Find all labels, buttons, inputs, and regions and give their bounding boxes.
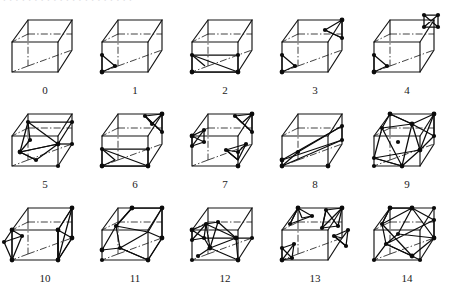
- cube-diagram-14: [362, 196, 452, 270]
- case-label-7: 7: [180, 177, 270, 191]
- cube-case-grid: 0: [0, 8, 461, 289]
- isosurface-5: [100, 112, 165, 169]
- case-cell-0: 0: [0, 8, 90, 102]
- case-cell-7: 7: [180, 102, 270, 196]
- isosurface-3: [372, 13, 441, 75]
- cube-diagram-2: [180, 8, 270, 82]
- case-cell-2: 2: [180, 8, 270, 102]
- isosurface-10: [100, 206, 165, 263]
- figure-root: . . . . . . . . . . . . . . . . . . . . …: [0, 0, 461, 289]
- case-cell-1: 1: [90, 8, 180, 102]
- cube-diagram-12: [180, 196, 270, 270]
- case-label-4: 4: [362, 83, 452, 97]
- cube-diagram-7: [180, 102, 270, 176]
- cube-diagram-6: [90, 102, 180, 176]
- cube-diagram-3: [270, 8, 360, 82]
- case-label-0: 0: [0, 83, 90, 97]
- case-label-3: 3: [270, 83, 360, 97]
- case-cell-5: 5: [0, 102, 90, 196]
- case-cell-13: 13: [270, 196, 360, 289]
- cube-diagram-1: [90, 8, 180, 82]
- cube-wireframe: [192, 208, 252, 260]
- isosurface-0: [100, 53, 118, 75]
- case-cell-4: 4: [362, 8, 452, 102]
- case-label-10: 10: [0, 271, 90, 285]
- cube-diagram-4: [362, 8, 452, 82]
- case-cell-9: 9: [362, 102, 452, 196]
- cube-diagram-11: [90, 196, 180, 270]
- isosurface-12: [280, 206, 351, 263]
- isosurface-9: [2, 206, 75, 263]
- case-label-14: 14: [362, 271, 452, 285]
- cube-diagram-13: [270, 196, 360, 270]
- case-cell-11: 11: [90, 196, 180, 289]
- cube-diagram-9: [362, 102, 452, 176]
- isosurface-7: [280, 124, 345, 168]
- case-label-13: 13: [270, 271, 360, 285]
- case-cell-8: 8: [270, 102, 360, 196]
- cut-off-header-text: . . . . . . . . . . . . . . . . . . . . …: [0, 0, 461, 8]
- isosurface-13: [372, 206, 437, 263]
- case-cell-10: 10: [0, 196, 90, 289]
- case-cell-14: 14: [362, 196, 452, 289]
- cube-wireframe: [12, 20, 72, 72]
- case-cell-6: 6: [90, 102, 180, 196]
- case-label-9: 9: [362, 177, 452, 191]
- cube-diagram-10: [0, 196, 90, 270]
- case-label-2: 2: [180, 83, 270, 97]
- case-cell-12: 12: [180, 196, 270, 289]
- case-label-6: 6: [90, 177, 180, 191]
- case-cell-3: 3: [270, 8, 360, 102]
- isosurface-6: [190, 112, 255, 169]
- case-label-11: 11: [90, 271, 180, 285]
- case-label-12: 12: [180, 271, 270, 285]
- cut-off-header-text-content: . . . . . . . . . . . . . . . . . . . . …: [0, 0, 132, 1]
- case-label-5: 5: [0, 177, 90, 191]
- cube-diagram-8: [270, 102, 360, 176]
- cube-diagram-5: [0, 102, 90, 176]
- case-label-8: 8: [270, 177, 360, 191]
- cube-wireframe: [102, 114, 162, 166]
- case-label-1: 1: [90, 83, 180, 97]
- isosurface-1: [190, 53, 241, 75]
- isosurface-2: [280, 18, 345, 75]
- cube-diagram-0: [0, 8, 90, 82]
- isosurface-8: [372, 112, 437, 169]
